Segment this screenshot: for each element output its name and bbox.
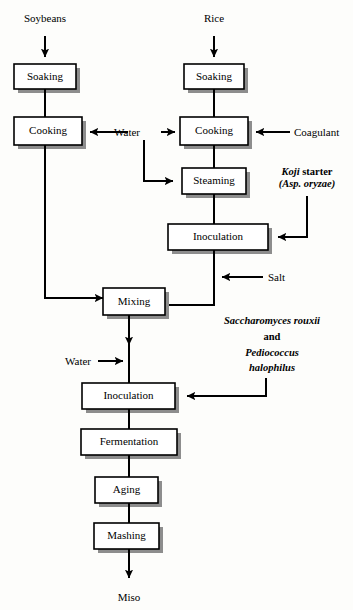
label-miso: Miso	[118, 591, 141, 603]
edge-water-to-steaming	[144, 140, 173, 181]
label-mashing: Mashing	[107, 529, 146, 541]
koji-roman-part: starter	[300, 166, 333, 177]
label-coagulant: Coagulant	[294, 126, 339, 138]
annotation-koji-starter-line2: (Asp. oryzae)	[279, 178, 336, 190]
label-koji-inoculation: Inoculation	[193, 230, 244, 242]
edge-culture-to-inoculation	[187, 378, 266, 396]
flowchart-canvas: Soybeans Rice Miso Soaking Cooking Soaki…	[0, 0, 353, 610]
label-fermentation: Fermentation	[100, 435, 159, 447]
label-rice: Rice	[204, 12, 224, 24]
label-aging: Aging	[113, 483, 141, 495]
label-rice-soaking: Soaking	[196, 70, 233, 82]
annotation-culture-line2: and	[264, 331, 281, 342]
label-soy-cooking: Cooking	[29, 124, 67, 136]
label-water-bottom: Water	[65, 355, 91, 367]
label-steaming: Steaming	[193, 174, 235, 186]
label-soy-soaking: Soaking	[27, 70, 64, 82]
label-rice-cooking: Cooking	[195, 124, 233, 136]
label-salt: Salt	[268, 271, 285, 283]
annotation-culture-line1: Saccharomyces rouxii	[224, 315, 320, 326]
label-mixing: Mixing	[118, 295, 151, 307]
miso-flowchart: Soybeans Rice Miso Soaking Cooking Soaki…	[0, 0, 353, 610]
annotation-koji-starter-line1: Koji starter	[280, 166, 332, 177]
annotation-culture-line3: Pediococcus	[245, 347, 299, 358]
koji-italic-part: Koji	[280, 166, 299, 177]
label-soybeans: Soybeans	[24, 12, 66, 24]
label-main-inoculation: Inoculation	[103, 389, 154, 401]
label-water-top: Water	[114, 126, 140, 138]
edge-koji-starter-to-inoculation	[278, 196, 307, 237]
annotation-culture-line4: halophilus	[249, 362, 295, 373]
edge-soy-cooking-to-mixing	[45, 145, 103, 298]
